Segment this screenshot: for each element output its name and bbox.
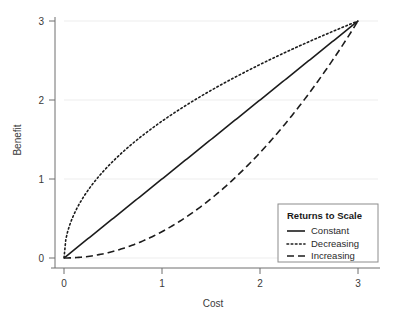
legend-title: Returns to Scale [287,210,362,221]
legend-label-constant: Constant [311,225,349,236]
x-tick-label-1: 1 [159,278,165,289]
y-tick-label-1: 1 [38,174,44,185]
returns-to-scale-chart: 3 2 1 0 0 1 2 3 Cost Benefit Returns to … [0,0,401,315]
legend-label-decreasing: Decreasing [311,238,359,249]
legend[interactable]: Returns to Scale Constant Decreasing Inc… [278,204,378,262]
legend-label-increasing: Increasing [311,250,355,261]
x-axis-title: Cost [203,298,224,309]
x-tick-label-0: 0 [61,278,67,289]
y-tick-label-0: 0 [38,253,44,264]
x-tick-label-2: 2 [257,278,263,289]
x-tick-label-3: 3 [355,278,361,289]
y-tick-label-2: 2 [38,95,44,106]
y-tick-label-3: 3 [38,16,44,27]
chart-figure: 3 2 1 0 0 1 2 3 Cost Benefit Returns to … [0,0,401,315]
y-axis-title: Benefit [12,124,23,155]
